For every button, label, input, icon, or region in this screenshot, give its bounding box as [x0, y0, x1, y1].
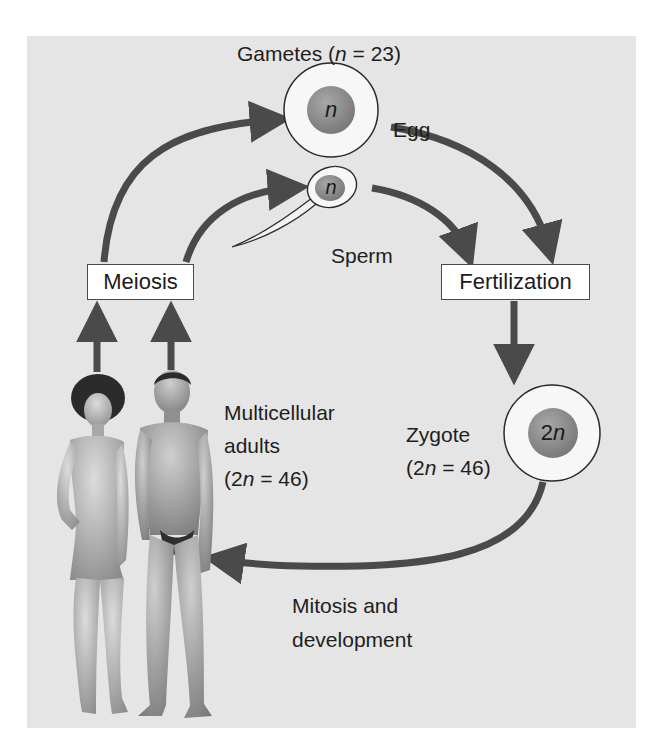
mitosis-label: Mitosis and development [292, 589, 412, 657]
woman-figure [57, 374, 129, 714]
gametes-title: Gametes (n = 23) [237, 37, 401, 71]
adults-label: Multicellular adults (2n = 46) [224, 396, 335, 495]
meiosis-box: Meiosis [87, 264, 194, 300]
fertilization-box: Fertilization [441, 264, 590, 300]
sperm-nucleus-label: n [314, 172, 348, 202]
zygote-label: Zygote (2n = 46) [406, 418, 491, 484]
man-figure [135, 370, 213, 718]
egg-label: Egg [393, 113, 430, 147]
egg-nucleus-label: n [311, 94, 351, 126]
sperm-label: Sperm [331, 239, 393, 273]
zygote-nucleus-label: 2n [528, 417, 578, 449]
